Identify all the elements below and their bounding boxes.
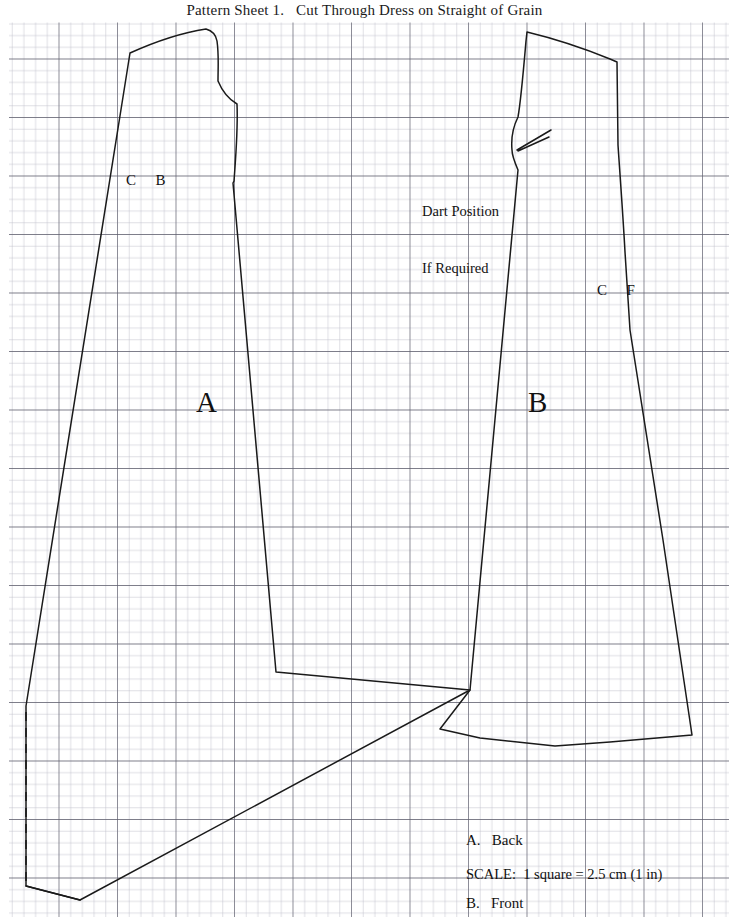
graph-paper-grid — [9, 23, 729, 917]
piece-legend: A. Back B. Front — [466, 788, 524, 917]
scale-note: SCALE: 1 square = 2.5 cm (1 in) — [466, 866, 662, 883]
center-back-label: C B — [126, 172, 170, 189]
legend-item-back: A. Back — [466, 830, 524, 851]
center-front-label: C F — [597, 282, 639, 299]
piece-a-letter: A — [196, 386, 217, 419]
dart-note-line-2: If Required — [422, 259, 499, 278]
dart-note-line-1: Dart Position — [422, 202, 499, 221]
dart-position-note: Dart Position If Required — [422, 164, 499, 316]
piece-b-letter: B — [528, 386, 547, 419]
pattern-sheet: Pattern Sheet 1. Cut Through Dress on St… — [0, 0, 729, 917]
pattern-drawing — [0, 0, 729, 917]
legend-item-front: B. Front — [466, 893, 524, 914]
